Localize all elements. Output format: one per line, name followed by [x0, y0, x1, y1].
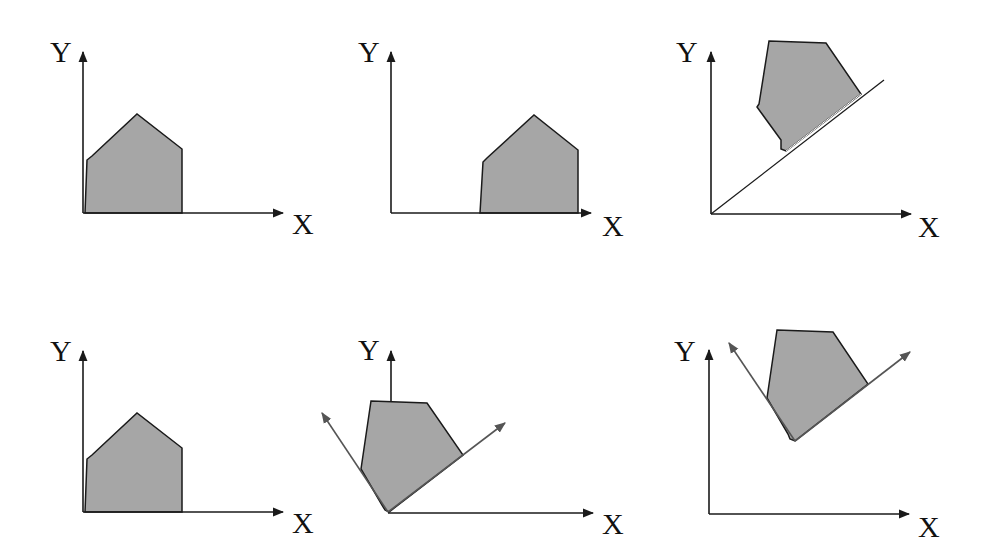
x-axis-label: X — [292, 207, 314, 240]
panel-bottom-middle: Y X — [322, 333, 624, 540]
x-axis-label: X — [918, 210, 940, 243]
x-axis-label: X — [602, 507, 624, 540]
panel-top-middle: Y X — [358, 35, 624, 242]
panel-top-right: Y X — [676, 35, 940, 243]
panel-top-left: Y X — [50, 35, 314, 240]
x-axis-label: X — [292, 506, 314, 539]
x-axis-label: X — [918, 510, 940, 543]
panel-bottom-right: Y X — [674, 330, 940, 543]
polygon-shape — [85, 413, 182, 512]
polygon-shape — [757, 41, 861, 151]
panel-bottom-left: Y X — [50, 334, 314, 539]
y-axis-label: Y — [676, 35, 698, 68]
x-axis-label: X — [602, 209, 624, 242]
y-axis-label: Y — [674, 334, 696, 367]
polygon-shape — [85, 114, 182, 213]
y-axis-label: Y — [358, 35, 380, 68]
polygon-shape — [480, 115, 578, 213]
y-axis-label: Y — [50, 35, 72, 68]
y-axis-label: Y — [358, 333, 380, 366]
y-axis-label: Y — [50, 334, 72, 367]
transformation-diagram: Y X Y X Y X Y X Y X — [0, 0, 988, 556]
